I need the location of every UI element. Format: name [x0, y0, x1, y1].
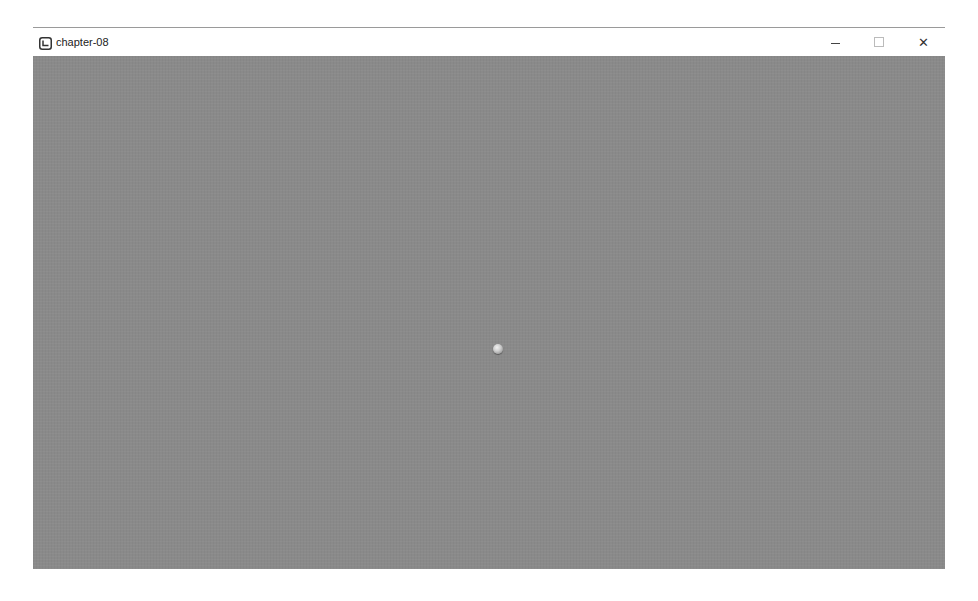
close-icon: ✕ [918, 35, 929, 50]
app-window: chapter-08 ✕ [33, 28, 945, 569]
sphere-object [493, 344, 503, 354]
render-viewport[interactable] [33, 56, 945, 569]
minimize-button[interactable] [813, 28, 857, 56]
window-title: chapter-08 [56, 36, 109, 48]
maximize-button[interactable] [857, 28, 901, 56]
window-controls: ✕ [813, 28, 945, 56]
maximize-icon [874, 37, 884, 47]
minimize-icon [831, 43, 840, 44]
title-bar[interactable]: chapter-08 ✕ [33, 28, 945, 56]
close-button[interactable]: ✕ [901, 28, 945, 56]
app-logo-icon [39, 36, 52, 49]
